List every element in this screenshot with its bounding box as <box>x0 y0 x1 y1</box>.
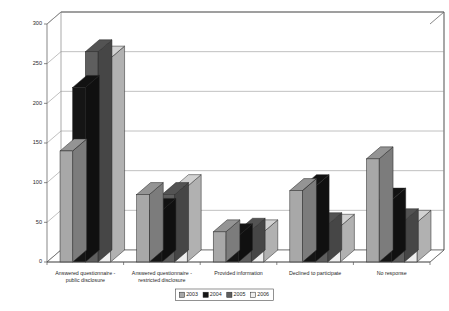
category-label-3: Provided information <box>214 270 263 276</box>
bar-2003-cat4-side <box>302 179 316 262</box>
bar-chart: 300250200150100500 Answered questionnair… <box>0 0 449 311</box>
category-labels: Answered questionnaire -public disclosur… <box>55 270 407 283</box>
legend-item-2006[interactable]: 2006 <box>250 291 269 297</box>
legend-label-2005: 2005 <box>234 291 246 297</box>
y-tick-label-200: 200 <box>33 100 42 106</box>
legend-swatch-2004 <box>203 292 208 297</box>
bar-2005-cat2-side <box>175 183 189 262</box>
bar-2003-cat2-side <box>149 183 163 262</box>
chart-container: 300250200150100500 Answered questionnair… <box>0 0 449 311</box>
legend-item-2005[interactable]: 2005 <box>227 291 246 297</box>
legend-item-2004[interactable]: 2004 <box>203 291 222 297</box>
bar-2003-cat2-front <box>137 195 150 262</box>
legend-swatch-2005 <box>227 292 232 297</box>
category-label-2-line2: restricted disclosure <box>138 277 185 283</box>
y-tick-label-300: 300 <box>33 20 42 26</box>
y-tick-label-100: 100 <box>33 179 42 185</box>
gridline-leader-50 <box>47 210 61 222</box>
x-axis <box>47 262 430 265</box>
y-tick-label-250: 250 <box>33 60 42 66</box>
bar-2004-cat1-side <box>85 75 99 262</box>
legend-swatch-2003 <box>179 292 184 297</box>
chart-legend: 2003200420052006 <box>175 289 273 301</box>
bar-2003-cat5-front <box>366 159 379 262</box>
bar-2004-cat4-side <box>315 175 329 262</box>
y-tick-label-50: 50 <box>36 219 42 225</box>
legend-label-2003: 2003 <box>186 291 198 297</box>
bar-2003-cat2 <box>137 183 164 262</box>
gridline-leader-250 <box>47 52 61 64</box>
bar-2003-cat1-side <box>73 139 87 262</box>
legend-label-2006: 2006 <box>257 291 269 297</box>
gridline-leader-150 <box>47 131 61 143</box>
category-label-4: Declined to participate <box>289 270 341 276</box>
category-label-5: No response <box>377 270 407 276</box>
bar-2003-cat5 <box>366 147 393 262</box>
bar-2003-cat1-front <box>60 151 73 262</box>
gridline-leader-300 <box>47 12 61 24</box>
category-label-1-line1: Answered questionnaire - <box>55 270 115 276</box>
bar-2003-cat3-front <box>213 232 226 262</box>
category-label-2-line1: Answered questionnaire - <box>132 270 192 276</box>
bar-2003-cat1 <box>60 139 87 262</box>
bar-2005-cat1-side <box>98 40 112 262</box>
legend-label-2004: 2004 <box>210 291 222 297</box>
bar-2006-cat1-side <box>111 46 125 262</box>
gridline-leader-100 <box>47 171 61 183</box>
category-label-1-line2: public disclosure <box>66 277 105 283</box>
y-tick-label-0: 0 <box>39 258 42 264</box>
y-axis: 300250200150100500 <box>33 20 47 264</box>
legend-item-2003[interactable]: 2003 <box>179 291 198 297</box>
bar-2004-cat5-side <box>392 188 406 262</box>
bar-2003-cat4-front <box>290 191 303 262</box>
bar-2003-cat5-side <box>379 147 393 262</box>
gridline-leader-200 <box>47 91 61 103</box>
legend-swatch-2006 <box>250 292 255 297</box>
bar-2006-cat2-side <box>187 175 201 262</box>
y-tick-label-150: 150 <box>33 139 42 145</box>
bar-2003-cat4 <box>290 179 317 262</box>
